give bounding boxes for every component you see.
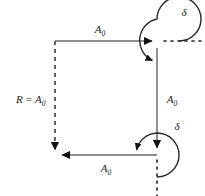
bottom-segment-label: A0 — [100, 162, 112, 177]
bottom-angle-label: δ — [174, 120, 180, 132]
top-angle-label: δ — [181, 6, 187, 18]
left-segment-subscript: 0 — [42, 99, 46, 108]
right-segment-label: A0 — [166, 93, 178, 108]
left-segment-prefix: R — [15, 93, 23, 105]
top-segment-subscript: 0 — [101, 29, 105, 38]
vector-path-diagram: A0 A0 A0 R=A0 δ δ — [0, 0, 205, 196]
left-segment-label: R=A0 — [15, 93, 46, 108]
top-segment-label: A0 — [94, 23, 106, 38]
right-segment-subscript: 0 — [173, 99, 177, 108]
diagram-canvas: A0 A0 A0 R=A0 δ δ — [0, 0, 205, 196]
bottom-segment-subscript: 0 — [107, 168, 111, 177]
left-segment-equals: = — [26, 93, 32, 105]
top-angle-arc — [140, 0, 201, 61]
